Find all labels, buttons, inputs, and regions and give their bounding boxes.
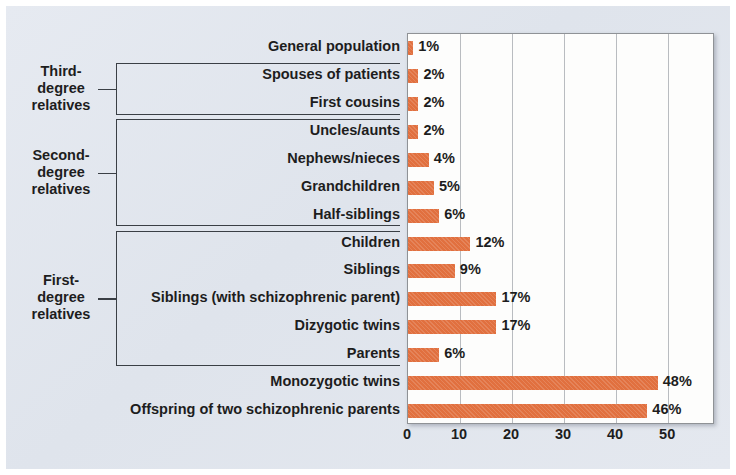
x-tick-label: 0 bbox=[403, 426, 411, 442]
category-row: Dizygotic twins bbox=[6, 312, 400, 341]
bar-row: 46% bbox=[408, 397, 713, 426]
figure-panel: Third- degree relativesSecond- degree re… bbox=[6, 6, 730, 469]
bar-value-label: 9% bbox=[460, 261, 481, 277]
category-label: Spouses of patients bbox=[262, 66, 400, 82]
category-row: Nephews/nieces bbox=[6, 145, 400, 174]
category-label: Dizygotic twins bbox=[294, 317, 400, 333]
category-label-column: General populationSpouses of patientsFir… bbox=[6, 33, 400, 424]
bar-value-label: 6% bbox=[444, 206, 465, 222]
category-label: General population bbox=[268, 38, 400, 54]
bar-row: 6% bbox=[408, 202, 713, 231]
bar bbox=[408, 125, 418, 139]
bar-value-label: 12% bbox=[475, 234, 504, 250]
bar bbox=[408, 97, 418, 111]
bar-row: 17% bbox=[408, 313, 713, 342]
bar bbox=[408, 404, 647, 418]
bar-value-label: 48% bbox=[663, 373, 692, 389]
bar-row: 1% bbox=[408, 34, 713, 63]
x-tick-label: 10 bbox=[451, 426, 467, 442]
bar-value-label: 4% bbox=[434, 150, 455, 166]
category-row: Grandchildren bbox=[6, 173, 400, 202]
bar bbox=[408, 209, 439, 223]
bar-value-label: 17% bbox=[501, 317, 530, 333]
category-label: Siblings bbox=[344, 261, 400, 277]
bar-row: 5% bbox=[408, 174, 713, 203]
category-label: Grandchildren bbox=[301, 178, 400, 194]
category-row: Siblings (with schizophrenic parent) bbox=[6, 284, 400, 313]
bar bbox=[408, 376, 658, 390]
bar-value-label: 17% bbox=[501, 289, 530, 305]
x-tick-label: 40 bbox=[607, 426, 623, 442]
bar-row: 9% bbox=[408, 257, 713, 286]
plot-area: 1%2%2%2%4%5%6%12%9%17%17%6%48%46% bbox=[407, 33, 714, 424]
bar-row: 6% bbox=[408, 341, 713, 370]
category-row: Offspring of two schizophrenic parents bbox=[6, 396, 400, 425]
category-row: Parents bbox=[6, 340, 400, 369]
category-row: Children bbox=[6, 229, 400, 258]
bar bbox=[408, 69, 418, 83]
category-label: Siblings (with schizophrenic parent) bbox=[151, 289, 400, 305]
category-row: Uncles/aunts bbox=[6, 117, 400, 146]
category-label: Uncles/aunts bbox=[310, 122, 400, 138]
bar-value-label: 5% bbox=[439, 178, 460, 194]
bar bbox=[408, 153, 429, 167]
x-tick-label: 20 bbox=[503, 426, 519, 442]
category-row: Siblings bbox=[6, 256, 400, 285]
category-label: Parents bbox=[347, 345, 400, 361]
category-row: Monozygotic twins bbox=[6, 368, 400, 397]
category-label: Half-siblings bbox=[313, 206, 400, 222]
category-row: Spouses of patients bbox=[6, 61, 400, 90]
category-label: Nephews/nieces bbox=[287, 150, 400, 166]
category-row: First cousins bbox=[6, 89, 400, 118]
bar bbox=[408, 264, 455, 278]
category-row: General population bbox=[6, 33, 400, 62]
bar-row: 17% bbox=[408, 285, 713, 314]
bar bbox=[408, 320, 496, 334]
x-axis: 01020304050 bbox=[407, 426, 714, 454]
chart-page: Third- degree relativesSecond- degree re… bbox=[0, 0, 736, 475]
bar bbox=[408, 292, 496, 306]
bar-value-label: 2% bbox=[423, 66, 444, 82]
bar-row: 12% bbox=[408, 230, 713, 259]
bar-value-label: 2% bbox=[423, 94, 444, 110]
bar-row: 48% bbox=[408, 369, 713, 398]
category-row: Half-siblings bbox=[6, 201, 400, 230]
x-tick-label: 50 bbox=[659, 426, 675, 442]
bar bbox=[408, 181, 434, 195]
bar bbox=[408, 237, 470, 251]
bar-value-label: 46% bbox=[652, 401, 681, 417]
bar-row: 2% bbox=[408, 90, 713, 119]
bar-value-label: 1% bbox=[418, 38, 439, 54]
category-label: Offspring of two schizophrenic parents bbox=[130, 401, 400, 417]
category-label: Children bbox=[341, 234, 400, 250]
category-label: First cousins bbox=[310, 94, 400, 110]
x-axis-title-wrap: Lifetime risk (in percentage) bbox=[6, 426, 400, 450]
bar bbox=[408, 348, 439, 362]
x-tick-label: 30 bbox=[555, 426, 571, 442]
bar-row: 4% bbox=[408, 146, 713, 175]
bar bbox=[408, 41, 413, 55]
bar-row: 2% bbox=[408, 62, 713, 91]
category-label: Monozygotic twins bbox=[270, 373, 400, 389]
bar-row: 2% bbox=[408, 118, 713, 147]
bar-value-label: 6% bbox=[444, 345, 465, 361]
bar-value-label: 2% bbox=[423, 122, 444, 138]
